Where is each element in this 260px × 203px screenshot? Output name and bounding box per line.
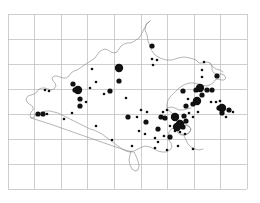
record-dot bbox=[180, 124, 185, 129]
record-dot bbox=[173, 123, 181, 131]
record-dot bbox=[46, 113, 49, 116]
record-dot bbox=[183, 118, 188, 123]
record-dot bbox=[140, 109, 143, 112]
record-dot bbox=[115, 64, 123, 72]
record-dot bbox=[138, 130, 141, 133]
record-dot bbox=[219, 110, 224, 115]
map-canvas bbox=[0, 0, 260, 203]
record-dot bbox=[192, 148, 195, 151]
record-dot bbox=[95, 81, 98, 84]
record-dot bbox=[174, 130, 177, 133]
record-dot bbox=[71, 112, 74, 115]
record-dot bbox=[179, 131, 182, 134]
record-dot bbox=[201, 69, 204, 72]
record-dot bbox=[44, 89, 47, 92]
record-dot bbox=[89, 87, 92, 90]
record-dot bbox=[152, 64, 155, 67]
records-layer bbox=[35, 43, 234, 151]
record-dot bbox=[188, 112, 191, 115]
record-dot bbox=[204, 87, 209, 92]
record-dot bbox=[166, 109, 169, 112]
record-dot bbox=[214, 73, 219, 78]
record-dot bbox=[201, 76, 204, 79]
record-dot bbox=[232, 111, 235, 114]
record-dot bbox=[85, 101, 88, 104]
record-dot bbox=[154, 147, 157, 150]
record-dot bbox=[143, 119, 148, 124]
record-dot bbox=[196, 84, 204, 92]
record-dot bbox=[107, 88, 112, 93]
record-dot bbox=[192, 116, 195, 119]
record-dot bbox=[219, 100, 222, 103]
record-dot bbox=[111, 139, 114, 142]
record-dot bbox=[72, 87, 77, 92]
record-dot bbox=[77, 96, 82, 101]
record-dot bbox=[215, 101, 218, 104]
record-dot bbox=[171, 113, 179, 121]
coastline-layer bbox=[26, 21, 226, 171]
record-dot bbox=[144, 133, 147, 136]
record-dot bbox=[226, 107, 231, 112]
record-dot bbox=[169, 125, 172, 128]
record-dot bbox=[77, 103, 82, 108]
record-dot bbox=[146, 111, 149, 114]
record-dot bbox=[162, 115, 167, 120]
record-dot bbox=[209, 87, 214, 92]
record-dot bbox=[131, 145, 134, 148]
record-dot bbox=[154, 137, 157, 140]
record-dot bbox=[155, 126, 160, 131]
record-dot bbox=[125, 114, 130, 119]
record-dot bbox=[203, 61, 206, 64]
record-dot bbox=[149, 43, 154, 48]
record-dot bbox=[183, 103, 188, 108]
record-dot bbox=[187, 98, 190, 101]
record-dot bbox=[177, 145, 180, 148]
record-dot bbox=[103, 93, 106, 96]
record-dot bbox=[162, 111, 165, 114]
distribution-map-figure bbox=[0, 0, 260, 203]
record-dot bbox=[157, 141, 160, 144]
record-dot bbox=[167, 134, 172, 139]
record-dot bbox=[156, 59, 159, 62]
record-dot bbox=[163, 135, 166, 138]
record-dot bbox=[35, 111, 40, 116]
record-dot bbox=[91, 68, 94, 71]
record-dot bbox=[199, 92, 204, 97]
record-dot bbox=[210, 101, 213, 104]
record-dot bbox=[225, 116, 228, 119]
record-dot bbox=[48, 90, 51, 93]
chesil-bank-path bbox=[31, 118, 133, 152]
record-dot bbox=[95, 125, 98, 128]
record-dot bbox=[166, 149, 169, 152]
record-dot bbox=[136, 116, 139, 119]
dorset-outline-path bbox=[26, 21, 226, 152]
record-dot bbox=[181, 113, 186, 118]
record-dot bbox=[197, 111, 200, 114]
record-dot bbox=[151, 58, 154, 61]
record-dot bbox=[116, 78, 121, 83]
record-dot bbox=[184, 133, 187, 136]
portland-path bbox=[129, 151, 139, 171]
record-dot bbox=[125, 97, 128, 100]
record-dot bbox=[70, 81, 75, 86]
record-dot bbox=[63, 118, 66, 121]
record-dot bbox=[193, 97, 201, 105]
record-dot bbox=[40, 111, 45, 116]
record-dot bbox=[180, 88, 185, 93]
